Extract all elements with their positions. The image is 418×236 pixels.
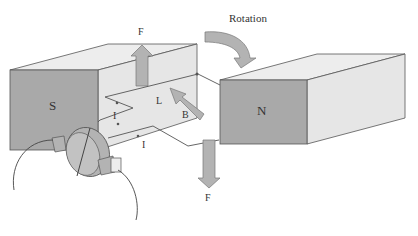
north-pole-label: N — [257, 104, 266, 117]
south-magnet — [10, 44, 197, 150]
force-top-label: F — [138, 27, 144, 37]
rotation-label: Rotation — [229, 13, 267, 24]
field-b-label: B — [182, 110, 189, 120]
current-top-label: I — [113, 111, 116, 121]
rotation-arrow — [205, 32, 256, 68]
force-down-arrow — [198, 140, 220, 188]
north-magnet — [220, 54, 405, 144]
length-label: L — [156, 96, 162, 106]
south-pole-label: S — [49, 99, 56, 112]
current-bottom-label: I — [142, 140, 145, 150]
force-bottom-label: F — [205, 193, 211, 203]
